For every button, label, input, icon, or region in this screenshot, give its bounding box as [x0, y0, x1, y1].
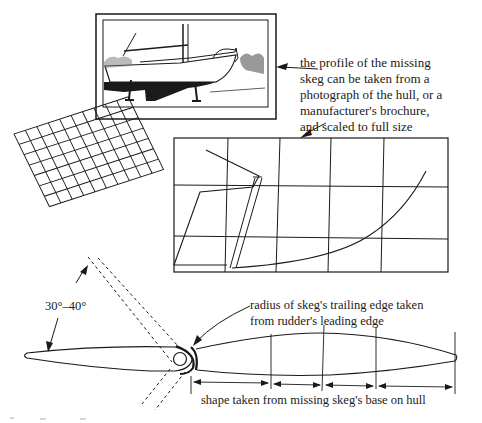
profile-note-line: the profile of the missing — [300, 55, 442, 71]
radius-note-line: radius of skeg's trailing edge taken — [250, 297, 423, 313]
faint-marks — [10, 418, 86, 419]
profile-note-line: skeg can be taken from a — [300, 71, 442, 87]
hull-photograph — [96, 14, 276, 119]
profile-note: the profile of the missing skeg can be t… — [300, 55, 442, 135]
angle-pointer-arrow — [46, 318, 58, 352]
profile-note-line: and scaled to full size — [300, 119, 442, 135]
rudder-swing-lines — [88, 257, 185, 410]
radius-note-line: from rudder's leading edge — [250, 313, 423, 329]
rudder-section — [25, 346, 194, 374]
full-size-grid — [174, 138, 448, 272]
skeg-section — [191, 325, 457, 394]
profile-note-line: manufacturer's brochure, — [300, 103, 442, 119]
rudder-swing-arrow — [76, 265, 88, 283]
dimension-arrowheads — [193, 379, 453, 390]
shape-note: shape taken from missing skeg's base on … — [201, 393, 426, 408]
radius-note: radius of skeg's trailing edge taken fro… — [250, 297, 423, 329]
profile-note-line: photograph of the hull, or a — [300, 87, 442, 103]
angle-label: 30°–40° — [45, 299, 86, 314]
